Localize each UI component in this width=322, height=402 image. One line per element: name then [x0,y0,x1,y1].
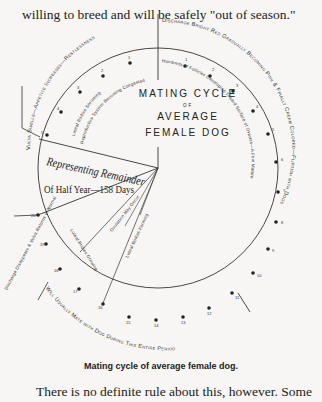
mating-cycle-diagram: 1 2 3 4 5 1 2 3 4 5 6 7 8 9 10 11 12 13 … [0,0,322,402]
label-after-season: Discharge Disappears & Vulva Returns to … [3,195,57,290]
svg-text:2: 2 [212,67,215,72]
svg-text:1: 1 [185,57,188,62]
svg-text:11: 11 [235,295,240,300]
diagram-title-line3: AVERAGE [157,111,219,122]
svg-text:6: 6 [281,157,284,162]
svg-text:9: 9 [272,248,275,253]
svg-text:17: 17 [73,289,78,294]
svg-text:13: 13 [181,320,186,325]
body-text-bottom: There is no definite rule about this, ho… [36,384,312,400]
label-reproductive: Reproductive System Becoming Congested [79,78,145,145]
svg-text:5: 5 [272,127,275,132]
svg-text:20: 20 [31,213,36,218]
svg-text:2: 2 [101,68,104,73]
svg-text:16: 16 [98,305,103,310]
svg-text:12: 12 [207,311,212,316]
diagram-title-line4: FEMALE DOG [145,127,231,138]
svg-text:4: 4 [57,106,60,111]
svg-text:1: 1 [128,55,131,60]
figure-caption: Mating cycle of average female dog. [0,361,322,371]
svg-text:15: 15 [126,320,131,325]
remainder-label-line2: Of Half Year—158 Days [44,183,134,195]
svg-text:3: 3 [77,85,80,90]
diagram-title-line2: OF [183,103,193,108]
svg-text:10: 10 [257,273,262,278]
svg-text:14: 14 [154,323,159,328]
label-ovulation: Ovulation May Occur [109,194,141,233]
svg-text:4: 4 [256,104,259,109]
svg-text:18: 18 [54,268,59,273]
svg-text:8: 8 [281,220,284,225]
svg-text:19: 19 [40,242,45,247]
label-luteal-growing: Luteal Bodies Growing [69,228,99,272]
